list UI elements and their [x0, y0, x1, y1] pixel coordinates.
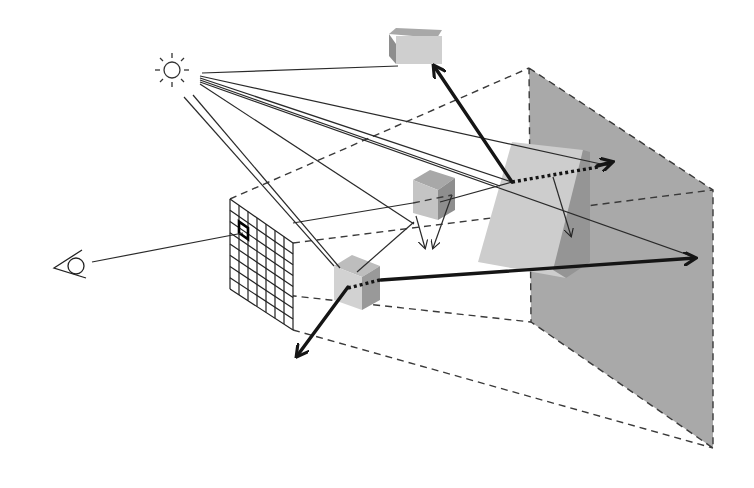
- sun-icon: [155, 53, 189, 87]
- ray-tracing-diagram: [0, 0, 754, 488]
- eye-icon: [54, 250, 86, 278]
- glass-slab: [478, 142, 590, 278]
- diagram-canvas: [0, 0, 754, 488]
- top-box: [389, 28, 442, 64]
- pixel-grid: [230, 199, 293, 330]
